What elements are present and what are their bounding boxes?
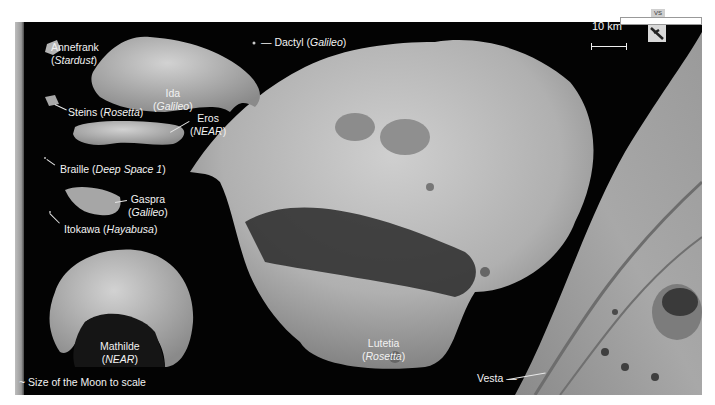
label-steins: Steins (Rosetta) (68, 106, 143, 119)
label-mathilde: Mathilde(NEAR) (100, 340, 140, 366)
strip-tag: VS (651, 9, 665, 17)
mission-strip-graphic (620, 17, 702, 25)
label-ida: Ida(Galileo) (153, 87, 193, 113)
spacecraft-icon (648, 25, 666, 42)
asteroid-comparison-image: Annefrank(Stardust) Ida(Galileo) — Dacty… (15, 22, 702, 395)
label-itokawa: Itokawa (Hayabusa) (64, 223, 157, 236)
label-lutetia: Lutetia(Rosetta) (362, 337, 405, 363)
label-gaspra: Gaspra(Galileo) (128, 193, 168, 219)
scale-bar (591, 46, 627, 47)
label-dactyl: — Dactyl (Galileo) (261, 36, 346, 49)
label-braille: Braille (Deep Space 1) (60, 163, 166, 176)
scale-label: 10 km (592, 22, 622, 32)
label-eros: Eros(NEAR) (190, 112, 226, 138)
label-moon-scale: ~ Size of the Moon to scale (19, 376, 146, 389)
label-annefrank: Annefrank(Stardust) (51, 41, 99, 67)
